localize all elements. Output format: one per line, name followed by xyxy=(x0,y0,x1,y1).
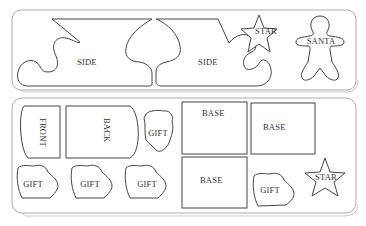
star-label-bottom: STAR xyxy=(315,172,337,182)
gift-label-4: GIFT xyxy=(137,179,157,189)
base-label-2: BASE xyxy=(263,122,286,132)
back-piece: BACK xyxy=(66,106,138,158)
cut-layout-diagram: SIDE SIDE STAR SANTA FRONT BACK xyxy=(0,0,366,226)
santa-label: SANTA xyxy=(307,36,336,46)
front-label: FRONT xyxy=(38,118,48,147)
base-piece-3: BASE xyxy=(182,157,247,208)
side-label-left: SIDE xyxy=(77,57,97,67)
board-top: SIDE SIDE STAR SANTA xyxy=(12,10,358,92)
back-label: BACK xyxy=(102,118,112,143)
front-piece: FRONT xyxy=(21,106,60,158)
board-bottom: FRONT BACK GIFT BASE BASE GIFT xyxy=(12,98,358,216)
side-label-right: SIDE xyxy=(198,57,218,67)
base-piece-2: BASE xyxy=(251,103,315,154)
gift-label-3: GIFT xyxy=(80,179,100,189)
star-label-top: STAR xyxy=(255,26,277,36)
gift-label-1: GIFT xyxy=(148,128,168,138)
gift-label-2: GIFT xyxy=(23,179,43,189)
base-label-1: BASE xyxy=(202,108,225,118)
base-label-3: BASE xyxy=(200,175,223,185)
base-piece-1: BASE xyxy=(182,102,247,154)
gift-label-5: GIFT xyxy=(260,185,280,195)
